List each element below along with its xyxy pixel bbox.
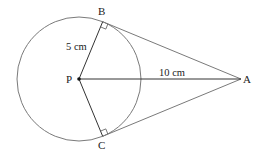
label-c: C [98,139,105,151]
pa-measure-label: 10 cm [159,67,185,78]
radius-pc [79,79,103,136]
center-point-p [77,77,81,81]
radius-measure-label: 5 cm [66,41,87,52]
tangent-diagram: B C P A 5 cm 10 cm [0,0,263,155]
label-b: B [98,5,105,17]
label-p: P [66,73,72,85]
tangent-line-ac [103,79,241,136]
label-a: A [243,73,251,85]
